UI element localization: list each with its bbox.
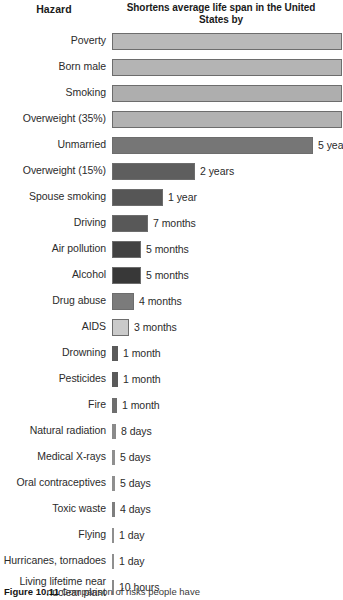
row-label: Drug abuse	[0, 288, 106, 314]
row-label: Pesticides	[0, 366, 106, 392]
row-bar-area: 1 month	[112, 366, 342, 392]
bar-value-label: 5 days	[120, 477, 151, 489]
chart-row: Overweight (35%)	[0, 106, 342, 132]
row-bar-area: 1 year	[112, 184, 342, 210]
bar	[112, 372, 118, 387]
bar	[112, 293, 134, 310]
row-bar-area: 7 months	[112, 210, 342, 236]
row-bar-area: 1 month	[112, 340, 342, 366]
bar	[112, 424, 116, 439]
bar-value-label: 5 months	[146, 243, 189, 255]
bar	[112, 476, 115, 491]
row-label: Medical X-rays	[0, 444, 106, 470]
row-label: AIDS	[0, 314, 106, 340]
row-bar-area: 1 day	[112, 548, 342, 574]
bar-rows: PovertyBorn maleSmokingOverweight (35%)U…	[0, 28, 342, 600]
chart-header: Hazard Shortens average life span in the…	[0, 0, 342, 28]
row-label: Spouse smoking	[0, 184, 106, 210]
figure-number: Figure 10.11	[4, 586, 59, 597]
bar	[112, 398, 117, 413]
chart-row: Born male	[0, 54, 342, 80]
chart-row: Fire1 month	[0, 392, 342, 418]
chart-row: Toxic waste4 days	[0, 496, 342, 522]
bar	[112, 319, 129, 336]
bar-value-label: 8 days	[121, 425, 152, 437]
row-bar-area	[112, 80, 342, 106]
chart-row: Medical X-rays5 days	[0, 444, 342, 470]
row-label: Fire	[0, 392, 106, 418]
bar-value-label: 1 month	[123, 373, 161, 385]
bar-value-label: 1 day	[119, 529, 144, 541]
row-bar-area: 3 months	[112, 314, 342, 340]
chart-row: Unmarried5 yea	[0, 132, 342, 158]
row-bar-area: 5 months	[112, 236, 342, 262]
row-bar-area: 2 years	[112, 158, 342, 184]
bar-value-label: 5 days	[120, 451, 151, 463]
bar-value-label: 1 year	[168, 191, 197, 203]
row-bar-area: 5 days	[112, 470, 342, 496]
chart-row: Smoking	[0, 80, 342, 106]
row-bar-area: 4 days	[112, 496, 342, 522]
row-bar-area	[112, 28, 342, 54]
bar	[112, 215, 148, 232]
row-label: Flying	[0, 522, 106, 548]
bar	[112, 502, 115, 517]
row-label: Natural radiation	[0, 418, 106, 444]
bar	[112, 267, 141, 284]
row-label: Smoking	[0, 80, 106, 106]
bar	[112, 111, 342, 128]
bar-value-label: 5 yea	[318, 139, 343, 151]
chart-row: Alcohol5 months	[0, 262, 342, 288]
row-label: Alcohol	[0, 262, 106, 288]
row-bar-area: 1 month	[112, 392, 342, 418]
row-label: Oral contraceptives	[0, 470, 106, 496]
row-label: Hurricanes, tornadoes	[0, 548, 106, 574]
bar-value-label: 4 days	[120, 503, 151, 515]
row-bar-area: 1 day	[112, 522, 342, 548]
bar-value-label: 5 months	[146, 269, 189, 281]
bar-value-label: 1 month	[123, 347, 161, 359]
row-bar-area	[112, 106, 342, 132]
bar	[112, 450, 115, 465]
bar	[112, 528, 114, 543]
chart-row: Flying1 day	[0, 522, 342, 548]
column-header-hazard: Hazard	[0, 3, 108, 15]
bar-value-label: 3 months	[134, 321, 177, 333]
row-label: Overweight (15%)	[0, 158, 106, 184]
chart-row: Overweight (15%)2 years	[0, 158, 342, 184]
chart-row: Hurricanes, tornadoes1 day	[0, 548, 342, 574]
bar	[112, 85, 342, 102]
bar	[112, 241, 141, 258]
chart-row: Spouse smoking1 year	[0, 184, 342, 210]
row-bar-area: 5 days	[112, 444, 342, 470]
chart-row: Driving7 months	[0, 210, 342, 236]
figure-caption: Figure 10.11 Comparison of risks people …	[4, 586, 342, 597]
bar	[112, 33, 342, 50]
row-bar-area: 8 days	[112, 418, 342, 444]
chart-row: Drug abuse4 months	[0, 288, 342, 314]
bar	[112, 346, 118, 361]
chart-row: Pesticides1 month	[0, 366, 342, 392]
bar	[112, 59, 342, 76]
row-bar-area: 5 months	[112, 262, 342, 288]
column-header-lifespan: Shortens average life span in the United…	[112, 2, 330, 25]
row-label: Overweight (35%)	[0, 106, 106, 132]
bar	[112, 554, 114, 569]
row-label: Poverty	[0, 28, 106, 54]
bar-value-label: 1 day	[119, 555, 144, 567]
row-label: Driving	[0, 210, 106, 236]
chart-row: Poverty	[0, 28, 342, 54]
row-label: Air pollution	[0, 236, 106, 262]
chart-row: Natural radiation8 days	[0, 418, 342, 444]
chart-row: Oral contraceptives5 days	[0, 470, 342, 496]
figure-caption-text: Comparison of risks people have	[62, 586, 200, 597]
row-label: Unmarried	[0, 132, 106, 158]
row-label: Born male	[0, 54, 106, 80]
bar-value-label: 4 months	[139, 295, 182, 307]
bar	[112, 163, 195, 180]
bar	[112, 137, 313, 154]
row-bar-area: 4 months	[112, 288, 342, 314]
bar	[112, 189, 163, 206]
bar-value-label: 1 month	[122, 399, 160, 411]
